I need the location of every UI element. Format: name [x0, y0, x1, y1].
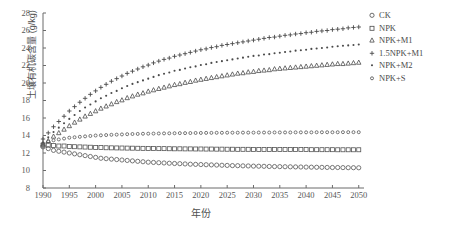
chart-legend: CKNPKNPK+M11.5NPK+M1NPK+M2NPK+S	[368, 9, 423, 85]
x-tick-label: 2050	[339, 190, 379, 200]
series-npk-s	[42, 131, 361, 145]
series-npk	[41, 143, 361, 152]
legend-item-label: CK	[378, 9, 391, 22]
y-tick-label: 12	[10, 149, 30, 158]
legend-item-1-5npk-m1[interactable]: 1.5NPK+M1	[368, 47, 423, 60]
y-tick-label: 10	[10, 166, 30, 175]
legend-item-npk-m1[interactable]: NPK+M1	[368, 34, 423, 47]
dot-icon	[368, 59, 378, 72]
y-axis-title: 土壤有机碳含量 (g/kg)	[25, 0, 38, 130]
legend-item-ck[interactable]: CK	[368, 9, 423, 22]
small-circle-icon	[368, 72, 378, 85]
open-triangle-icon	[368, 34, 378, 47]
legend-item-label: NPK	[378, 22, 396, 35]
series-ck	[41, 145, 361, 170]
legend-item-label: NPK+M2	[378, 59, 413, 72]
chart-figure: 810121416182022242628 199019952000200520…	[0, 0, 456, 227]
legend-item-npk[interactable]: NPK	[368, 22, 423, 35]
legend-item-npk-s[interactable]: NPK+S	[368, 72, 423, 85]
open-square-icon	[368, 22, 378, 35]
legend-item-label: NPK+S	[378, 72, 406, 85]
y-tick-label: 14	[10, 131, 30, 140]
legend-item-npk-m2[interactable]: NPK+M2	[368, 59, 423, 72]
series-npk-m2	[42, 43, 360, 143]
series-1-5npk-m1	[41, 25, 361, 141]
open-circle-icon	[368, 9, 378, 22]
legend-item-label: 1.5NPK+M1	[378, 47, 423, 60]
legend-item-label: NPK+M1	[378, 34, 413, 47]
plus-icon	[368, 47, 378, 60]
x-axis-title: 年份	[36, 205, 366, 220]
